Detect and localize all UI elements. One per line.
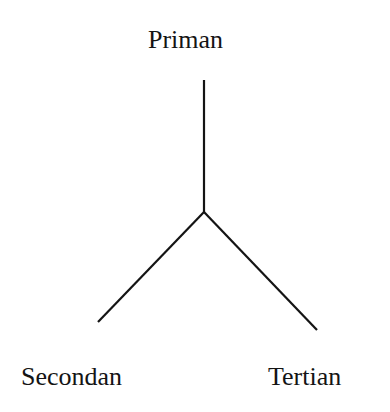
node-label-top: Priman [148, 27, 223, 53]
edge-junction-to-left [98, 212, 204, 322]
node-label-left: Secondan [21, 364, 122, 390]
edge-junction-to-right [204, 212, 317, 330]
node-label-right: Tertian [268, 364, 341, 390]
tree-edges [0, 0, 390, 412]
